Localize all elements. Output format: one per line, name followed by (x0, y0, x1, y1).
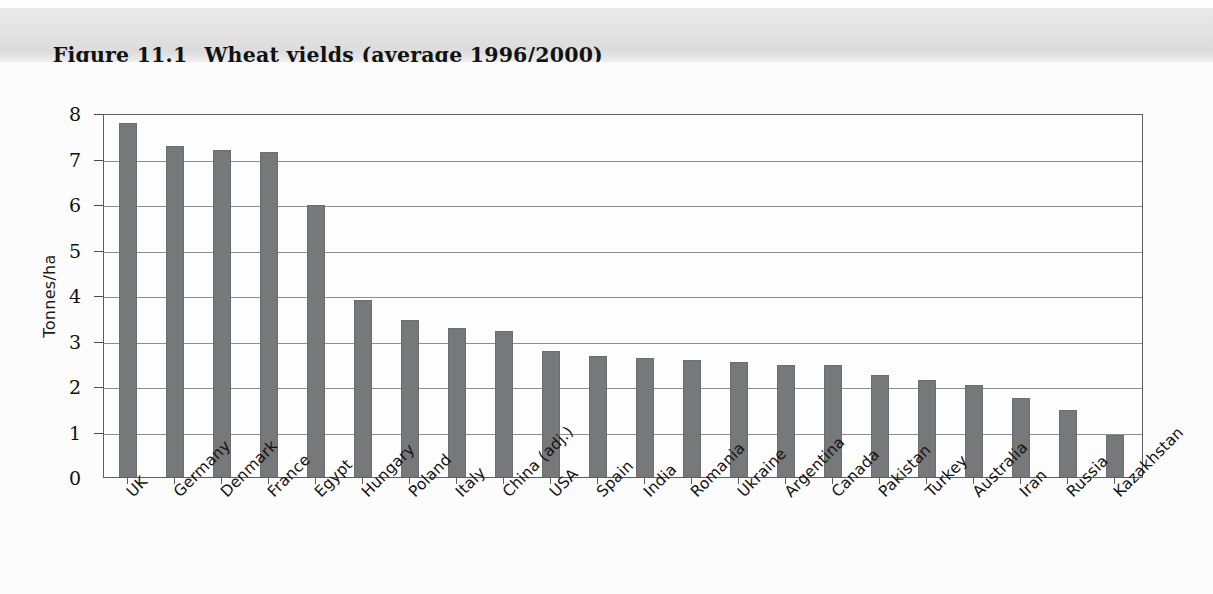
bar-series (104, 115, 1142, 477)
bar (918, 380, 936, 477)
x-tick-mark (174, 478, 175, 484)
y-tick-mark (94, 433, 103, 434)
bar (824, 365, 842, 477)
x-tick-mark (738, 478, 739, 484)
bar (589, 356, 607, 477)
x-tick-mark (691, 478, 692, 484)
y-tick-mark (94, 114, 103, 115)
x-tick-mark (268, 478, 269, 484)
x-tick-mark (315, 478, 316, 484)
y-tick-mark (94, 387, 103, 388)
bar (730, 362, 748, 477)
y-tick-label: 1 (69, 423, 81, 442)
bar (119, 123, 137, 477)
bar (260, 152, 278, 477)
x-tick-mark (644, 478, 645, 484)
x-tick-mark (550, 478, 551, 484)
y-tick-label: 2 (69, 378, 81, 397)
bar (354, 300, 372, 477)
bar (965, 385, 983, 477)
bar (636, 358, 654, 477)
bar (542, 351, 560, 477)
x-tick-mark (1067, 478, 1068, 484)
bar (495, 331, 513, 477)
plot-area (103, 114, 1143, 478)
x-tick-mark (362, 478, 363, 484)
y-tick-label: 7 (69, 150, 81, 169)
bar (871, 375, 889, 477)
bar (166, 146, 184, 477)
x-tick-mark (456, 478, 457, 484)
x-tick-mark (926, 478, 927, 484)
x-tick-mark (409, 478, 410, 484)
y-tick-mark (94, 251, 103, 252)
x-tick-mark (1114, 478, 1115, 484)
bar (1012, 398, 1030, 477)
x-tick-mark (127, 478, 128, 484)
chart-figure: Tonnes/ha 012345678 UKGermanyDenmarkFran… (0, 62, 1213, 594)
bar (448, 328, 466, 477)
bar (683, 360, 701, 477)
y-axis: 012345678 (0, 62, 103, 594)
bar (777, 365, 795, 477)
y-tick-label: 3 (69, 332, 81, 351)
y-tick-mark (94, 205, 103, 206)
bar (1106, 435, 1124, 477)
bar (307, 205, 325, 477)
bar (401, 320, 419, 477)
x-tick-mark (503, 478, 504, 484)
y-tick-label: 6 (69, 196, 81, 215)
bar (213, 150, 231, 477)
y-tick-label: 8 (69, 105, 81, 124)
bar (1059, 410, 1077, 477)
x-tick-mark (973, 478, 974, 484)
figure-title: Figure 11.1Wheat yields (average 1996/20… (38, 19, 603, 67)
x-tick-mark (832, 478, 833, 484)
x-tick-mark (597, 478, 598, 484)
y-tick-label: 5 (69, 241, 81, 260)
y-tick-mark (94, 296, 103, 297)
y-tick-mark (94, 160, 103, 161)
x-tick-mark (221, 478, 222, 484)
y-tick-mark (94, 342, 103, 343)
x-tick-mark (879, 478, 880, 484)
y-tick-label: 0 (69, 469, 81, 488)
x-tick-mark (1020, 478, 1021, 484)
y-tick-label: 4 (69, 287, 81, 306)
x-tick-mark (785, 478, 786, 484)
